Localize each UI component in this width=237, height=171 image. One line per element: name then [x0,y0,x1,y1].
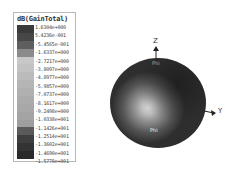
z-axis-label: Z [153,37,158,45]
y-axis-label: Y [218,107,222,115]
phi-label-bottom: Phi [150,127,158,133]
y-arrow-icon [211,110,216,116]
axes-overlay [0,0,237,171]
phi-label-top: Phi [152,60,160,66]
z-arrow-icon [153,46,159,51]
